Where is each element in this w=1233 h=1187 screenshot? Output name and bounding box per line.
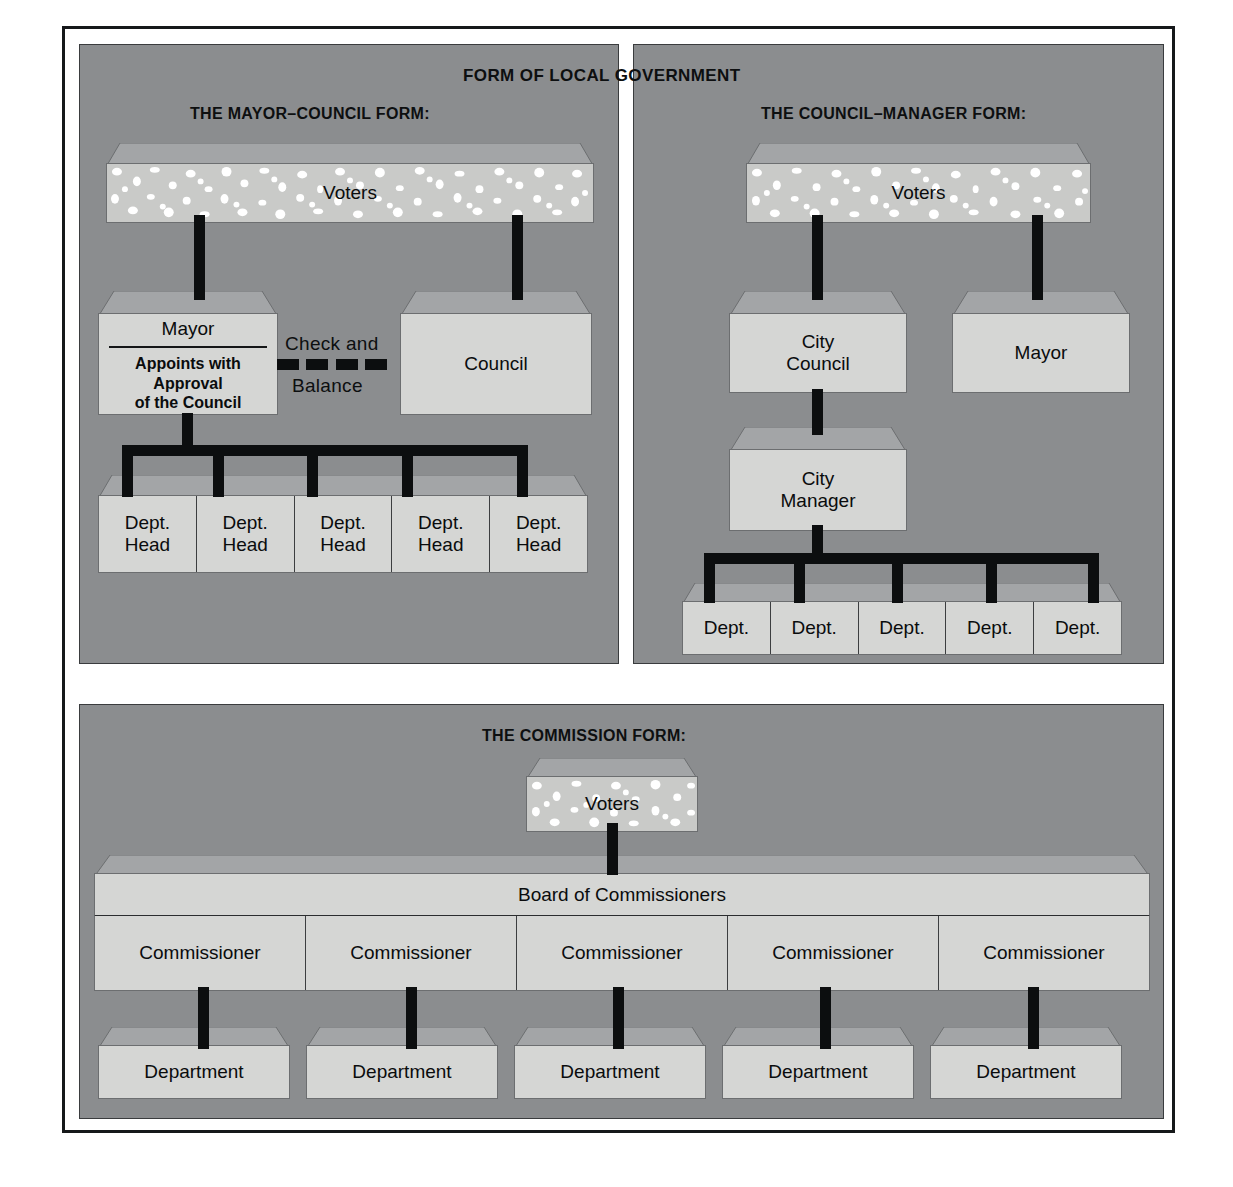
connector-voters-to-city-council <box>812 215 823 300</box>
dept-head-cell: Dept. Head <box>197 496 295 572</box>
connector-voters-to-council <box>512 215 523 300</box>
department-label: Department <box>768 1061 867 1083</box>
drop-department-5 <box>1088 553 1099 603</box>
dept-head-cell: Dept. Head <box>295 496 393 572</box>
department-label: Department <box>352 1061 451 1083</box>
dept-head-cell: Dept. Head <box>99 496 197 572</box>
department-cell: Dept. <box>946 602 1034 654</box>
department-cell: Dept. <box>683 602 771 654</box>
connector-voters-to-mayor <box>1032 215 1043 300</box>
dept-head-cells: Dept. Head Dept. Head Dept. Head Dept. H… <box>98 495 588 573</box>
city-council-box: City Council <box>729 291 907 393</box>
department-label: Department <box>144 1061 243 1083</box>
voters-label: Voters <box>585 793 639 815</box>
board-of-commissioners-header: Board of Commissioners <box>94 873 1150 917</box>
dept-head-cell: Dept. Head <box>490 496 587 572</box>
city-manager-label: City Manager <box>781 468 856 511</box>
department-face: Department <box>514 1045 706 1099</box>
council-box: Council <box>400 291 592 415</box>
connector-commissioner-2-to-department <box>406 987 417 1049</box>
connector-check-and-balance <box>277 359 387 370</box>
panel-title-mayor-council: THE MAYOR–COUNCIL FORM: <box>190 105 430 123</box>
panel-title-council-manager: THE COUNCIL–MANAGER FORM: <box>761 105 1026 123</box>
figure-frame: FORM OF LOCAL GOVERNMENT THE MAYOR–COUNC… <box>62 26 1175 1133</box>
department-face: Department <box>306 1045 498 1099</box>
check-and-balance-label-bottom: Balance <box>292 375 363 397</box>
department-cell: Dept. <box>859 602 947 654</box>
drop-department-4 <box>986 553 997 603</box>
figure-main-title: FORM OF LOCAL GOVERNMENT <box>463 66 741 86</box>
connector-commissioner-5-to-department <box>1028 987 1039 1049</box>
board-of-commissioners-slab: Board of Commissioners Commissioner Comm… <box>94 855 1150 991</box>
panel-title-commission: THE COMMISSION FORM: <box>482 727 686 745</box>
mayor-title: Mayor <box>99 318 277 340</box>
connector-voters-to-board <box>607 823 618 875</box>
commissioner-cell: Commissioner <box>728 916 939 990</box>
drop-dept-head-1 <box>122 445 133 497</box>
department-cell: Dept. <box>1034 602 1121 654</box>
voters-box-commission: Voters <box>526 758 698 832</box>
city-council-face: City Council <box>729 313 907 393</box>
drop-department-2 <box>794 553 805 603</box>
panel-council-manager-form: THE COUNCIL–MANAGER FORM: <box>633 44 1164 664</box>
department-label: Department <box>976 1061 1075 1083</box>
connector-commissioner-4-to-department <box>820 987 831 1049</box>
council-label: Council <box>464 353 527 375</box>
mayor-face: Mayor <box>952 313 1130 393</box>
connector-voters-to-mayor <box>194 215 205 300</box>
connector-commissioner-3-to-department <box>613 987 624 1049</box>
voters-face: Voters <box>746 163 1091 223</box>
commissioner-cells: Commissioner Commissioner Commissioner C… <box>94 916 1150 991</box>
city-manager-box: City Manager <box>729 427 907 531</box>
drop-dept-head-3 <box>307 445 318 497</box>
department-face: Department <box>930 1045 1122 1099</box>
dept-head-slab: Dept. Head Dept. Head Dept. Head Dept. H… <box>98 475 588 573</box>
connector-commissioner-1-to-department <box>198 987 209 1049</box>
commissioner-cell: Commissioner <box>95 916 306 990</box>
voters-face: Voters <box>106 163 594 223</box>
mayor-appointment-note: Appoints with Approval of the Council <box>99 354 277 413</box>
department-label: Department <box>560 1061 659 1083</box>
department-box-5: Department <box>930 1027 1122 1099</box>
department-cell: Dept. <box>771 602 859 654</box>
panel-mayor-council-form: THE MAYOR–COUNCIL FORM: <box>79 44 619 664</box>
council-face: Council <box>400 313 592 415</box>
commissioner-cell: Commissioner <box>306 916 517 990</box>
mayor-label: Mayor <box>1015 342 1068 364</box>
commissioner-cell: Commissioner <box>939 916 1149 990</box>
drop-dept-head-2 <box>213 445 224 497</box>
commissioner-cell: Commissioner <box>517 916 728 990</box>
voters-label: Voters <box>323 182 377 204</box>
department-face: Department <box>98 1045 290 1099</box>
mayor-box: Mayor Appoints with Approval of the Coun… <box>98 291 278 415</box>
bus-bar-dept-heads <box>122 445 528 456</box>
voters-box-council-manager: Voters <box>746 143 1091 223</box>
drop-department-1 <box>704 553 715 603</box>
department-box-3: Department <box>514 1027 706 1099</box>
voters-box-mayor-council: Voters <box>106 143 594 223</box>
drop-dept-head-5 <box>517 445 528 497</box>
mayor-face: Mayor Appoints with Approval of the Coun… <box>98 313 278 415</box>
mayor-box-council-manager: Mayor <box>952 291 1130 393</box>
department-box-2: Department <box>306 1027 498 1099</box>
voters-label: Voters <box>892 182 946 204</box>
drop-dept-head-4 <box>402 445 413 497</box>
check-and-balance-label-top: Check and <box>285 333 379 355</box>
panel-commission-form: THE COMMISSION FORM: <box>79 704 1164 1119</box>
dept-head-cell: Dept. Head <box>392 496 490 572</box>
department-face: Department <box>722 1045 914 1099</box>
connector-council-to-manager <box>812 389 823 435</box>
city-council-label: City Council <box>786 331 849 374</box>
department-box-4: Department <box>722 1027 914 1099</box>
department-box-1: Department <box>98 1027 290 1099</box>
mayor-divider-rule <box>109 346 267 348</box>
city-manager-face: City Manager <box>729 449 907 531</box>
department-cells: Dept. Dept. Dept. Dept. Dept. <box>682 601 1122 655</box>
drop-department-3 <box>892 553 903 603</box>
